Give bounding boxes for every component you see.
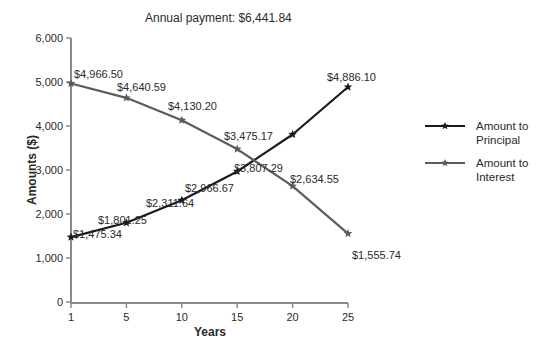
data-label: $2,311.64: [146, 197, 194, 209]
data-label: $1,475.34: [73, 228, 122, 240]
x-axis-label: Years: [194, 325, 226, 339]
legend-item-interest: Amount toInterest: [425, 157, 528, 183]
data-label: $3,807.29: [234, 162, 283, 174]
data-label: $3,475.17: [224, 130, 273, 142]
data-label: $4,886.10: [327, 71, 376, 83]
data-label: $4,640.59: [117, 81, 166, 93]
x-tick-label: 20: [286, 311, 298, 323]
star-marker-icon: [122, 93, 131, 101]
y-tick-label: 1,000: [35, 252, 63, 264]
y-tick-label: 2,000: [35, 208, 63, 220]
legend-label: Amount to: [476, 157, 528, 169]
data-label: $2,634.55: [290, 173, 339, 185]
y-tick-label: 5,000: [35, 76, 63, 88]
x-tick-label: 1: [68, 311, 74, 323]
data-label: $4,966.50: [74, 68, 123, 80]
legend: Amount toPrincipalAmount toInterest: [425, 120, 528, 183]
legend-label: Principal: [476, 134, 520, 146]
legend-label: Interest: [476, 171, 515, 183]
x-tick-label: 10: [176, 311, 188, 323]
data-label: $2,966.67: [185, 182, 234, 194]
y-tick-label: 3,000: [35, 164, 63, 176]
y-tick-label: 0: [57, 296, 63, 308]
x-tick-label: 15: [231, 311, 243, 323]
star-marker-icon: [441, 122, 449, 129]
x-tick-label: 5: [123, 311, 129, 323]
data-label: $4,130.20: [168, 100, 217, 112]
data-label: $1,801.25: [98, 214, 147, 226]
star-marker-icon: [441, 159, 449, 166]
legend-item-principal: Amount toPrincipal: [425, 120, 528, 146]
y-tick-label: 6,000: [35, 32, 63, 44]
data-label: $1,555.74: [352, 249, 401, 261]
legend-label: Amount to: [476, 120, 528, 132]
y-tick-label: 4,000: [35, 120, 63, 132]
x-tick-label: 25: [342, 311, 354, 323]
y-axis-label: Amounts ($): [25, 135, 39, 205]
chart-title: Annual payment: $6,441.84: [145, 11, 292, 25]
loan-amortization-chart: Annual payment: $6,441.84 01,0002,0003,0…: [0, 0, 543, 348]
